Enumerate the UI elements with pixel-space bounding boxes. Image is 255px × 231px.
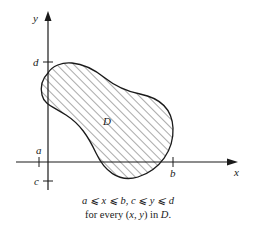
caption-text: for every ( [85, 209, 129, 220]
caption-text: ) in [144, 209, 161, 220]
caption-inequalities: a ⩽ x ⩽ b, c ⩽ y ⩽ d [28, 194, 228, 207]
y-axis-label: y [32, 12, 38, 24]
tick-label-c: c [34, 175, 39, 187]
region-label-d: D [102, 115, 111, 127]
y-axis-arrow-icon [45, 11, 52, 21]
x-axis-label: x [233, 166, 239, 178]
caption-text: . [168, 209, 171, 220]
tick-label-d: d [33, 56, 39, 68]
tick-label-a: a [36, 144, 42, 156]
x-axis-arrow-icon [227, 159, 238, 166]
tick-label-b: b [170, 167, 176, 179]
caption-quantifier: for every (x, y) in D. [28, 208, 228, 221]
caption-xy: x, y [129, 209, 144, 220]
